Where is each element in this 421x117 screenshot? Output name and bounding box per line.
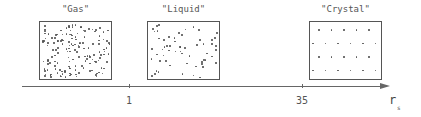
particle-dot [158,24,160,26]
particle-dot [108,42,110,44]
particle-dot [103,49,105,51]
particle-dot [181,53,183,55]
particle-dot [82,42,84,44]
particle-dot [69,75,71,77]
particle-dot [71,35,73,37]
particle-dot [159,60,161,62]
particle-dot [91,70,93,72]
particle-dot [375,43,377,45]
particle-dot [211,39,213,41]
particle-dot [205,59,207,61]
particle-dot [189,55,191,57]
tick-1 [129,84,130,88]
particle-dot [331,29,333,31]
particle-dot [65,76,67,78]
gas-label: "Gas" [39,4,112,14]
particle-dot [78,46,80,48]
particle-dot [211,43,213,45]
particle-dot [42,40,44,42]
particle-dot [104,51,106,53]
particle-dot [95,61,97,63]
particle-dot [107,30,109,32]
particle-dot [93,54,95,56]
particle-dot [72,59,74,61]
particle-dot [169,45,171,47]
axis-arrow-icon [380,83,390,89]
particle-dot [94,31,96,33]
particle-dot [44,68,46,70]
particle-dot [318,56,320,58]
particle-dot [55,68,57,70]
particle-dot [368,29,370,31]
particle-dot [168,50,170,52]
particle-dot [47,69,49,71]
particle-dot [43,61,45,63]
particle-dot [77,33,79,35]
particle-dot [74,44,76,46]
particle-dot [89,70,91,72]
particle-dot [57,72,59,74]
particle-dot [202,66,204,68]
particle-dot [92,43,94,45]
particle-dot [66,33,68,35]
particle-dot [57,52,59,54]
particle-dot [66,48,68,50]
particle-dot [45,38,47,40]
particle-dot [68,48,70,50]
particle-dot [195,66,197,68]
particle-dot [47,59,49,61]
particle-dot [185,29,187,31]
particle-dot [203,43,205,45]
particle-dot [75,69,77,71]
particle-dot [53,42,55,44]
particle-dot [48,33,50,35]
particle-dot [71,38,73,40]
particle-dot [168,36,170,38]
particle-dot [88,28,90,30]
particle-dot [184,47,186,49]
gas-box [39,21,112,80]
particle-dot [152,28,154,30]
particle-dot [64,70,66,72]
particle-dot [216,32,218,34]
particle-dot [178,32,180,34]
particle-dot [84,56,86,58]
particle-dot [103,31,105,33]
particle-dot [215,45,217,47]
particle-dot [74,49,76,51]
particle-dot [337,43,339,45]
particle-dot [106,61,108,63]
particle-dot [55,49,57,51]
particle-dot [83,67,85,69]
particle-dot [106,47,108,49]
particle-dot [103,68,105,70]
particle-dot [154,31,156,33]
particle-dot [162,49,164,51]
particle-dot [179,46,181,48]
particle-dot [356,29,358,31]
particle-dot [215,62,217,64]
particle-dot [102,73,104,75]
particle-dot [198,29,200,31]
particle-dot [76,76,78,78]
particle-dot [193,26,195,28]
particle-dot [84,36,86,38]
particle-dot [44,30,46,32]
particle-dot [174,37,176,39]
particle-dot [182,73,184,75]
particle-dot [163,55,165,57]
axis-label-r: r [389,93,396,107]
particle-dot [151,48,153,50]
particle-dot [57,47,59,49]
particle-dot [75,65,77,67]
particle-dot [99,27,101,29]
particle-dot [103,54,105,56]
particle-dot [180,51,182,53]
crystal-box [309,21,382,80]
particle-dot [80,27,82,29]
tick-label-35: 35 [296,95,308,106]
liquid-label: "Liquid" [147,4,220,14]
particle-dot [343,56,345,58]
particle-dot [350,70,352,72]
particle-dot [88,47,90,49]
